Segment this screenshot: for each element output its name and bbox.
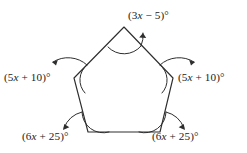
pentagon-outline (74, 27, 173, 132)
angle-arrow-curve-bottom-right (166, 112, 184, 128)
angle-arc-right (160, 65, 167, 93)
angle-label-top: (3x − 5)° (128, 10, 169, 21)
arrowhead-top (139, 33, 146, 38)
angle-arrow-curve-right (160, 58, 194, 65)
geometry-figure: (3x − 5)° (5x + 10)° (5x + 10)° (6x + 25… (0, 0, 247, 153)
angle-label-bottom-right: (6x + 25)° (152, 131, 199, 142)
angle-arrow-curve-left (53, 58, 87, 65)
angle-arc-left (80, 65, 87, 93)
angle-arrow-curve-bottom-left (64, 112, 82, 128)
angle-label-right: (5x + 10)° (178, 72, 225, 83)
angle-arc-top (108, 46, 141, 54)
angle-label-left: (5x + 10)° (4, 72, 51, 83)
angle-label-bottom-left: (6x + 25)° (22, 131, 69, 142)
